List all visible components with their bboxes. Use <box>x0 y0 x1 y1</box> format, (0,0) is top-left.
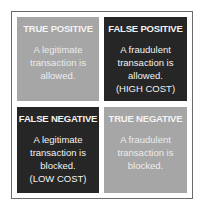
description-line: allowed. <box>21 69 95 82</box>
description-line: A fraudulent <box>108 43 183 56</box>
description-line: transaction is <box>21 146 95 159</box>
description-line: transaction is <box>108 56 183 69</box>
cell-description: A legitimate transaction is blocked. (LO… <box>17 133 99 185</box>
description-line: blocked. <box>21 159 95 172</box>
cell-title: TRUE NEGATIVE <box>104 113 187 125</box>
description-line: transaction is <box>21 56 95 69</box>
cell-description: A fraudulent transaction is allowed. (HI… <box>104 43 187 95</box>
description-line: blocked. <box>108 159 183 172</box>
description-line: A legitimate <box>21 43 95 56</box>
cell-false-negative: FALSE NEGATIVE A legitimate transaction … <box>17 107 99 193</box>
cell-title: TRUE POSITIVE <box>17 23 99 35</box>
cell-description: A legitimate transaction is allowed. <box>17 43 99 82</box>
cost-label: (LOW COST) <box>21 172 95 185</box>
cost-label: (HIGH COST) <box>108 82 183 95</box>
description-line: allowed. <box>108 69 183 82</box>
description-line: A fraudulent <box>108 133 183 146</box>
cell-description: A fraudulent transaction is blocked. <box>104 133 187 172</box>
cell-false-positive: FALSE POSITIVE A fraudulent transaction … <box>104 17 187 101</box>
cell-true-positive: TRUE POSITIVE A legitimate transaction i… <box>17 17 99 101</box>
cell-title: FALSE NEGATIVE <box>17 113 99 125</box>
cell-title: FALSE POSITIVE <box>104 23 187 35</box>
cell-true-negative: TRUE NEGATIVE A fraudulent transaction i… <box>104 107 187 193</box>
description-line: A legitimate <box>21 133 95 146</box>
description-line: transaction is <box>108 146 183 159</box>
